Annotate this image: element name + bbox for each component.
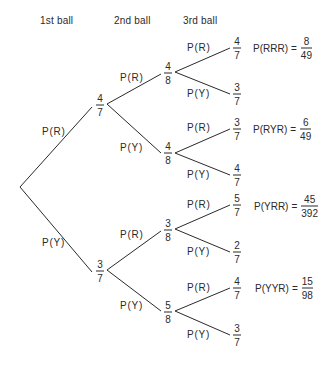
numerator: 3 [234,323,240,334]
denominator: 8 [165,155,171,166]
leaf-fraction: 37 [233,117,241,142]
numerator: 4 [234,276,240,287]
fraction-bar [164,312,172,313]
branch-y [20,187,92,272]
denominator: 7 [234,50,240,61]
fraction-bar [300,129,311,130]
denominator: 7 [234,290,240,301]
numerator: 5 [165,300,171,311]
numerator: 15 [302,276,313,287]
fraction-bar [233,205,241,206]
numerator: 4 [165,141,171,152]
branch-label: P(R) [42,126,66,137]
numerator: 4 [97,93,103,104]
leaf-fraction: 37 [233,323,241,348]
leaf-fraction: 27 [233,240,241,265]
denominator: 8 [165,232,171,243]
node-fraction: 58 [164,300,172,325]
fraction-bar [164,73,172,74]
fraction-bar [233,252,241,253]
denominator: 7 [234,207,240,218]
numerator: 4 [234,36,240,47]
denominator: 7 [234,131,240,142]
fraction-bar [233,129,241,130]
node-fraction: 37 [96,259,104,284]
denominator: 49 [300,131,311,142]
equals-sign: = [292,283,298,294]
fraction-bar [233,175,241,176]
node-fraction: 47 [96,93,104,118]
result-expression: P(RYR) [253,124,287,135]
branch-label: P(Y) [120,142,143,153]
header-3rd-ball: 3rd ball [183,15,217,26]
result-expression: P(YRR) [254,201,288,212]
denominator: 49 [301,50,312,61]
branch-label: P(Y) [187,246,210,257]
leaf-fraction: 47 [233,36,241,61]
branch-label: P(Y) [187,329,210,340]
branch-label: P(R) [187,122,211,133]
result-expression: P(YYR) [255,283,289,294]
denominator: 8 [165,314,171,325]
header-2nd-ball: 2nd ball [114,15,151,26]
denominator: 7 [97,107,103,118]
fraction-bar [301,48,312,49]
result-fraction: 45392 [300,194,319,219]
branch-label: P(R) [120,229,144,240]
header-1st-ball: 1st ball [40,15,73,26]
numerator: 8 [304,36,310,47]
equals-sign: = [290,124,296,135]
result-expression: P(RRR) [253,43,288,54]
branch-label: P(Y) [120,300,143,311]
equals-sign: = [291,43,297,54]
branch-label: P(R) [187,282,211,293]
fraction-bar [164,153,172,154]
numerator: 3 [234,117,240,128]
leaf-fraction: 37 [233,82,241,107]
fraction-bar [233,94,241,95]
equals-sign: = [291,201,297,212]
result-yrr: P(YRR)= 45392 [254,194,319,219]
numerator: 5 [234,193,240,204]
fraction-bar [302,288,313,289]
result-yyr: P(YYR)= 1598 [255,276,314,301]
fraction-bar [233,288,241,289]
fraction-bar [96,105,104,106]
denominator: 7 [97,273,103,284]
denominator: 7 [234,254,240,265]
result-fraction: 1598 [301,276,314,301]
numerator: 3 [165,218,171,229]
node-fraction: 48 [164,141,172,166]
numerator: 3 [234,82,240,93]
numerator: 45 [304,194,315,205]
leaf-fraction: 47 [233,276,241,301]
numerator: 4 [234,163,240,174]
branch-label: P(R) [120,72,144,83]
branch-label: P(Y) [187,88,210,99]
numerator: 2 [234,240,240,251]
numerator: 3 [97,259,103,270]
fraction-bar [301,206,318,207]
denominator: 98 [302,290,313,301]
denominator: 8 [165,75,171,86]
leaf-fraction: 57 [233,193,241,218]
result-ryr: P(RYR)= 649 [253,117,312,142]
denominator: 7 [234,177,240,188]
denominator: 392 [301,208,318,219]
branch-label: P(Y) [42,237,65,248]
fraction-bar [96,271,104,272]
node-fraction: 48 [164,61,172,86]
fraction-bar [233,48,241,49]
branch-r [20,107,92,187]
leaf-fraction: 47 [233,163,241,188]
branch-label: P(R) [187,42,211,53]
numerator: 6 [303,117,309,128]
node-fraction: 38 [164,218,172,243]
fraction-bar [233,335,241,336]
result-fraction: 649 [299,117,312,142]
result-fraction: 849 [300,36,313,61]
branch-label: P(R) [187,199,211,210]
denominator: 7 [234,96,240,107]
result-rrr: P(RRR)= 849 [253,36,313,61]
numerator: 4 [165,61,171,72]
